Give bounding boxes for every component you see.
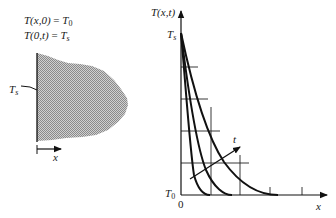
initial-temperature-tick-label: T0	[165, 187, 175, 201]
semi-infinite-solid-panel: T(x,0) = T0 T(0,t) = Ts Ts x	[9, 14, 128, 163]
temperature-profile-plot: t T(x,t) Ts T0 0 x	[151, 6, 327, 212]
boundary-condition: T(0,t) = Ts	[24, 29, 70, 43]
transient-conduction-diagram: T(x,0) = T0 T(0,t) = Ts Ts x	[0, 0, 336, 218]
origin-label: 0	[178, 198, 184, 210]
time-label: t	[233, 133, 237, 145]
grid-lines	[181, 67, 302, 195]
left-x-label: x	[52, 151, 58, 163]
initial-condition: T(x,0) = T0	[24, 14, 72, 28]
surface-label-leader	[21, 86, 37, 90]
surface-temperature-tick-label: Ts	[167, 28, 176, 42]
y-axis-label: T(x,t)	[151, 6, 175, 19]
solid-body	[37, 53, 128, 141]
surface-temperature-label: Ts	[9, 83, 18, 97]
temperature-curves	[181, 33, 278, 195]
profile-t3	[181, 33, 278, 195]
x-axis-label: x	[315, 200, 321, 212]
